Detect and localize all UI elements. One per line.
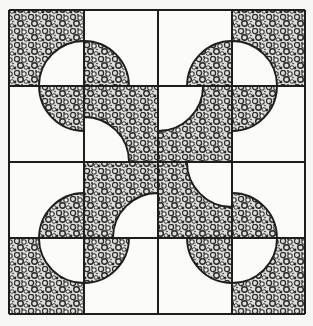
quilt-tile [158,86,232,162]
quilt-tile [232,162,305,238]
quilt-tile [232,86,305,162]
quilt-diagram [0,0,313,326]
quilt-tile [9,10,84,86]
quilt-tile [9,238,84,314]
quilt-tile [158,238,232,314]
quilt-tile [9,162,84,238]
quilt-tile [158,162,232,238]
quilt-tile [232,238,305,314]
quilt-tile [84,238,158,314]
quilt-tile [9,86,84,162]
quilt-tile [232,10,305,86]
quilt-tile [84,86,158,162]
quilt-tile [84,10,158,86]
quilt-tile [158,10,232,86]
quilt-tile [84,162,158,238]
